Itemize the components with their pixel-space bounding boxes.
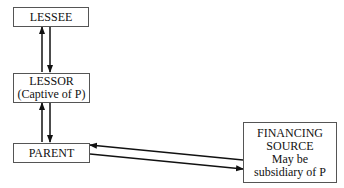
financing-label-3: May be: [272, 153, 308, 166]
arrow-parent-to-financing: [90, 154, 243, 169]
financing-label-2: SOURCE: [266, 140, 313, 153]
lessee-label: LESSEE: [30, 11, 73, 24]
lessee-node: LESSEE: [13, 7, 89, 27]
financing-label-4: subsidiary of P: [254, 166, 326, 179]
financing-source-node: FINANCING SOURCE May be subsidiary of P: [243, 122, 337, 183]
parent-node: PARENT: [13, 143, 90, 163]
lessor-sublabel: (Captive of P): [18, 88, 86, 101]
arrow-financing-to-parent: [90, 145, 243, 160]
parent-label: PARENT: [29, 147, 75, 160]
lessor-node: LESSOR (Captive of P): [13, 73, 90, 103]
financing-label-1: FINANCING: [257, 127, 323, 140]
